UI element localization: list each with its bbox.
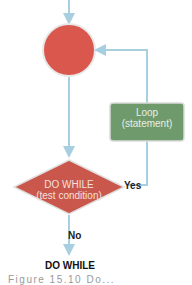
loop-label-line1: Loop (111, 107, 183, 118)
figure-caption: Figure 15.10 Do... (8, 274, 188, 285)
decision-label-line1: DO WHILE (14, 179, 124, 190)
loop-box-label: Loop (statement) (111, 107, 183, 129)
loop-back-arrow (100, 50, 147, 103)
no-label: No (68, 230, 81, 241)
decision-label-line2: (test condition) (14, 190, 124, 201)
yes-path (127, 141, 147, 185)
diagram-title: DO WHILE (30, 260, 110, 271)
yes-label: Yes (124, 180, 141, 191)
start-circle (43, 24, 95, 76)
decision-label: DO WHILE (test condition) (14, 179, 124, 201)
loop-label-line2: (statement) (111, 118, 183, 129)
